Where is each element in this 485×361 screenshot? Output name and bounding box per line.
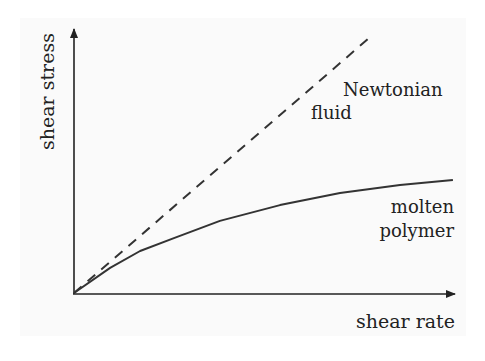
newtonian-fluid-line xyxy=(74,37,370,293)
rheology-diagram: shear stress shear rate Newtonian fluid … xyxy=(0,0,485,361)
newtonian-label-line1: Newtonian xyxy=(343,79,443,100)
newtonian-label-line2: fluid xyxy=(311,102,352,123)
y-axis-label: shear stress xyxy=(36,33,58,150)
polymer-label-line2: polymer xyxy=(379,220,454,241)
x-axis-label: shear rate xyxy=(356,310,455,332)
polymer-label-line1: molten xyxy=(391,196,455,217)
